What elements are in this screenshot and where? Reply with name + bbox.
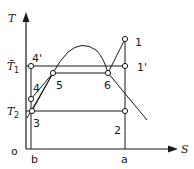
label-point-4p: 4'	[32, 52, 42, 65]
x-axis-arrow-icon	[168, 146, 178, 153]
point-5	[50, 70, 55, 75]
t1-subscript: 1	[14, 66, 19, 75]
x-marker-b: b	[31, 153, 38, 166]
y-axis-label: T	[8, 12, 17, 25]
label-point-4: 4	[33, 82, 40, 95]
point-4	[28, 96, 33, 101]
label-point-3: 3	[33, 117, 40, 130]
label-point-5: 5	[56, 79, 63, 92]
ts-diagram: T S o T̄ 1 T 2 b a 1 1' 2 3 4 4' 5 6	[0, 0, 194, 169]
point-3	[29, 108, 34, 113]
label-point-1: 1	[135, 36, 142, 49]
label-point-2: 2	[114, 124, 121, 137]
label-point-1p: 1'	[137, 61, 147, 74]
point-2	[122, 108, 127, 113]
point-6	[105, 70, 110, 75]
axes	[26, 20, 172, 149]
origin-label: o	[11, 145, 18, 158]
point-1	[122, 36, 127, 41]
y-axis-arrow-icon	[23, 12, 30, 22]
label-point-6: 6	[104, 79, 111, 92]
point-1p	[122, 63, 127, 68]
t2-subscript: 2	[14, 111, 19, 120]
x-marker-a: a	[121, 153, 128, 166]
x-axis-label: S	[181, 143, 189, 156]
line-6-1	[108, 39, 125, 73]
